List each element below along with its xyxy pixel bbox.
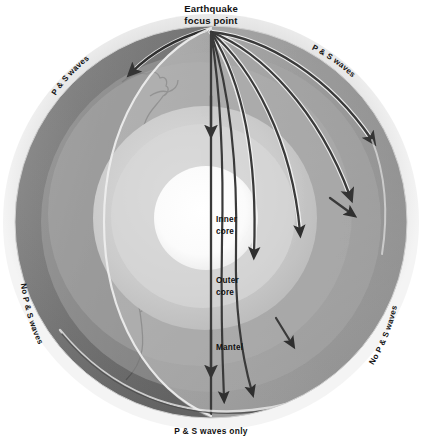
mantle-label: Mantel xyxy=(216,343,243,352)
globe-interior xyxy=(15,26,407,418)
inner-core-label-line1: Inner xyxy=(216,215,238,224)
inner-core-layer xyxy=(154,166,258,270)
outer-core-label-line1: Outer xyxy=(216,276,239,285)
focus-label-line1: Earthquake xyxy=(184,3,238,14)
inner-core-label-line2: core xyxy=(216,227,234,236)
focus-label-line2: focus point xyxy=(184,15,238,26)
zone-label-bottom: P & S waves only xyxy=(174,426,248,436)
earth-cross-section-svg: Earthquake focus point Inner core Outer … xyxy=(0,0,422,444)
earthquake-diagram: Earthquake focus point Inner core Outer … xyxy=(0,0,422,444)
outer-core-label-line2: core xyxy=(216,288,234,297)
